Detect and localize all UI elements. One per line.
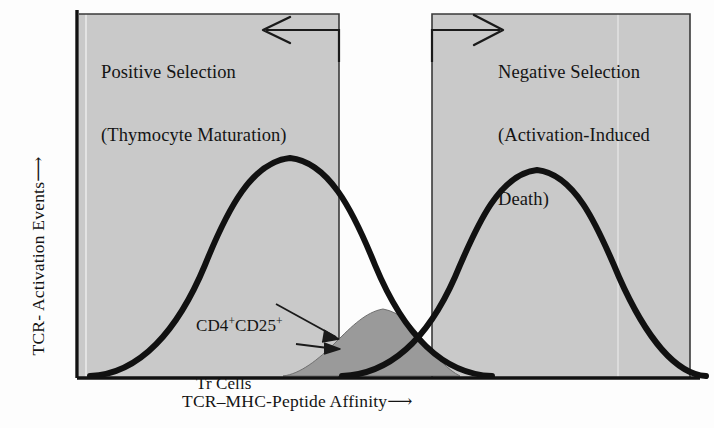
tr-cells-cd25-text: CD25 <box>235 316 276 335</box>
positive-selection-line1: Positive Selection <box>101 62 287 83</box>
tcr-selection-figure: Positive Selection (Thymocyte Maturation… <box>0 0 714 428</box>
y-axis-label-text: TCR- Activation Events <box>28 182 48 356</box>
positive-selection-line2: (Thymocyte Maturation) <box>101 125 287 146</box>
negative-selection-label: Negative Selection (Activation-Induced D… <box>498 20 650 252</box>
x-axis-label-text: TCR–MHC-Peptide Affinity <box>182 391 387 411</box>
negative-selection-line3: Death) <box>498 189 650 210</box>
y-axis-arrow-icon: ⟶ <box>28 157 48 182</box>
negative-selection-line2: (Activation-Induced <box>498 125 650 146</box>
positive-selection-label: Positive Selection (Thymocyte Maturation… <box>101 20 287 189</box>
tr-cells-line1: CD4+CD25+ <box>196 316 283 335</box>
negative-selection-line1: Negative Selection <box>498 62 650 83</box>
x-axis-label: TCR–MHC-Peptide Affinity⟶ <box>182 392 413 412</box>
x-axis-arrow-icon: ⟶ <box>387 391 412 411</box>
tr-cells-sup-plus-2: + <box>276 315 283 328</box>
tr-cells-cd4-text: CD4 <box>196 316 228 335</box>
y-axis-label: TCR- Activation Events⟶ <box>29 131 49 381</box>
